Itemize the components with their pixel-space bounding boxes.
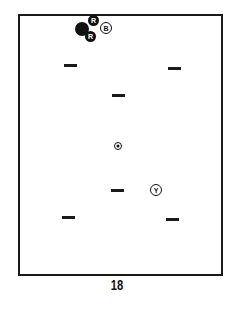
yellow-ball: Y: [150, 184, 162, 196]
blue-ball: B: [100, 22, 112, 34]
position-marker: [64, 64, 77, 67]
ball-label: Y: [154, 187, 159, 194]
position-marker: [168, 67, 181, 70]
ball-label: R: [91, 17, 96, 24]
red-ball: R: [88, 15, 99, 26]
position-marker: [111, 189, 124, 192]
red-ball: R: [85, 31, 96, 42]
position-marker: [112, 94, 125, 97]
page-number: 18: [23, 277, 210, 293]
ball-label: R: [88, 33, 93, 40]
ball-label: B: [103, 25, 108, 32]
position-marker: [62, 216, 75, 219]
center-spot-icon: [114, 142, 122, 150]
position-marker: [166, 218, 179, 221]
